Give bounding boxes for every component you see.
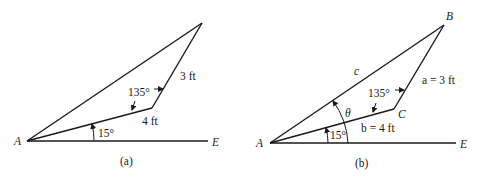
side-label-c: c xyxy=(354,65,359,77)
angle-label-theta: θ xyxy=(345,107,351,119)
angle-label-135: 135° xyxy=(128,86,150,98)
side-AC xyxy=(27,108,152,141)
angle-label-135: 135° xyxy=(368,87,390,99)
side-label-CB: 3 ft xyxy=(180,70,196,82)
angle-label-15: 15° xyxy=(330,129,347,141)
point-label-E: E xyxy=(459,138,467,150)
side-label-AC: 4 ft xyxy=(142,115,158,127)
panel-b: A B C E c a = 3 ft 135° θ b = 4 ft 15° (… xyxy=(255,10,467,170)
side-label-b: b = 4 ft xyxy=(361,122,395,134)
angle-arrow-135-left xyxy=(132,101,135,110)
angle-arc-15 xyxy=(326,128,328,143)
side-a-CB xyxy=(394,25,444,109)
side-AB xyxy=(27,23,202,141)
point-label-A: A xyxy=(255,137,264,149)
point-label-A: A xyxy=(13,135,22,147)
angle-label-15: 15° xyxy=(98,127,115,139)
side-c-AB xyxy=(270,25,444,143)
point-label-B: B xyxy=(446,10,453,22)
side-CB xyxy=(152,23,202,108)
side-label-a: a = 3 ft xyxy=(422,74,456,86)
point-label-E: E xyxy=(211,136,219,148)
caption-a: (a) xyxy=(120,155,133,168)
vector-diagram: A E 3 ft 135° 4 ft 15° (a) A B C E c a =… xyxy=(0,0,480,180)
caption-b: (b) xyxy=(355,157,369,170)
angle-arc-15 xyxy=(92,124,94,141)
panel-a: A E 3 ft 135° 4 ft 15° (a) xyxy=(13,23,219,168)
point-label-C: C xyxy=(398,108,406,120)
angle-arrow-135-left xyxy=(373,103,376,112)
